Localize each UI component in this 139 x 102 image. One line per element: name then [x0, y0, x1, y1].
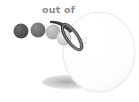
illustration-svg: out of: [0, 0, 139, 102]
illustration-canvas: out of: [0, 0, 139, 102]
caption-label: out of: [42, 4, 76, 15]
trail-ball-2: [31, 23, 46, 38]
trail-ball-1: [14, 24, 29, 39]
large-white-sphere: [63, 12, 135, 92]
